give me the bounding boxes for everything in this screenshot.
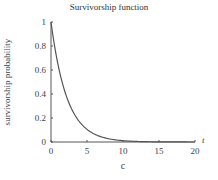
x-tick-label: 15	[155, 146, 165, 156]
y-tick-label: 0.8	[35, 41, 47, 51]
x-tick-label: 20	[191, 146, 201, 156]
survivorship-curve	[51, 22, 195, 142]
x-tick-label: 10	[119, 146, 129, 156]
y-tick-label: 0.6	[35, 65, 47, 75]
x-tick-label: 5	[85, 146, 90, 156]
y-tick-label: 0	[42, 137, 47, 147]
x-tick-label: 0	[49, 146, 54, 156]
y-tick-label: 0.4	[35, 89, 47, 99]
y-tick-label: 0.2	[35, 113, 46, 123]
plot-area: 0510152000.20.40.60.81	[0, 0, 218, 180]
y-tick-label: 1	[42, 17, 47, 27]
